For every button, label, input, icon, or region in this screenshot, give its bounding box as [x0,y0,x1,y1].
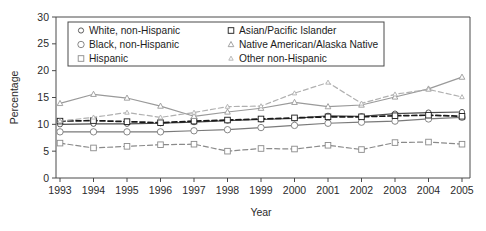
x-tick-label: 1993 [48,184,72,196]
series-4 [57,74,465,118]
legend-label: Asian/Pacific Islander [239,25,337,36]
x-tick-label: 1999 [249,184,273,196]
x-tick-label: 2000 [283,184,307,196]
y-tick-label: 15 [37,91,49,103]
chart-container: 051015202530 199319941995199619971998199… [0,0,486,231]
legend-label: White, non-Hispanic [89,25,180,36]
x-tick-label: 1995 [115,184,139,196]
x-axis-title: Year [250,206,272,218]
y-tick-label: 10 [37,118,49,130]
x-tick-label: 1997 [182,184,206,196]
legend-label: Other non-Hispanic [239,53,327,64]
series-2 [57,139,465,154]
y-axis: 051015202530 [37,11,56,184]
y-tick-label: 30 [37,11,49,23]
x-tick-label: 2001 [316,184,340,196]
x-tick-label: 2002 [350,184,374,196]
x-tick-label: 1998 [216,184,240,196]
legend-item-5[interactable]: Other non-Hispanic [229,53,327,64]
legend-item-0[interactable]: White, non-Hispanic [78,25,180,36]
x-tick-label: 2005 [450,184,474,196]
x-tick-label: 2003 [383,184,407,196]
y-tick-label: 5 [43,145,49,157]
legend-label: Black, non-Hispanic [89,39,179,50]
series-line [60,82,462,121]
x-tick-label: 1994 [82,184,106,196]
series-layer [57,74,465,154]
line-chart: 051015202530 199319941995199619971998199… [0,0,486,231]
x-tick-label: 2004 [417,184,441,196]
y-axis-title: Percentage [8,70,20,124]
legend-label: Hispanic [89,53,128,64]
legend-label: Native American/Alaska Native [239,39,379,50]
x-tick-label: 1996 [149,184,173,196]
y-tick-label: 0 [43,172,49,184]
y-tick-label: 20 [37,64,49,76]
chart-legend: White, non-HispanicBlack, non-HispanicHi… [68,22,384,66]
legend-item-4[interactable]: Native American/Alaska Native [228,39,378,50]
legend-item-1[interactable]: Black, non-Hispanic [78,39,179,50]
y-tick-label: 25 [37,37,49,49]
legend-item-3[interactable]: Asian/Pacific Islander [228,25,337,36]
